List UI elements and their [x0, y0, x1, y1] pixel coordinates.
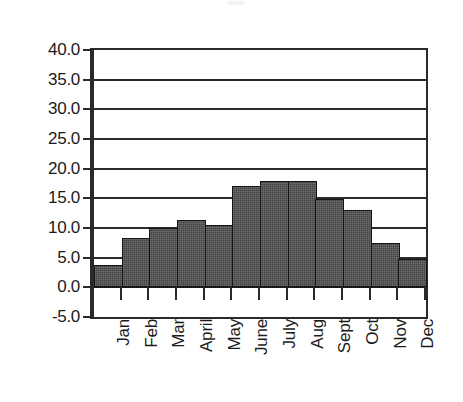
- y-axis-tick-labels: 40.035.030.025.020.015.010.05.00.0-5.0: [22, 0, 80, 402]
- y-tick-label: 20.0: [26, 160, 80, 177]
- plot-inner-area: [94, 50, 426, 317]
- x-tick-mark: [313, 287, 315, 300]
- y-tick-label: 25.0: [26, 130, 80, 147]
- x-label-jan: Jan: [115, 319, 133, 399]
- y-tick-mark: [83, 49, 93, 51]
- y-tick-label: 15.0: [26, 189, 80, 206]
- bar-dec: [398, 259, 427, 287]
- bar-series: [94, 50, 426, 317]
- x-label-mar: Mar: [170, 319, 188, 399]
- bar-oct: [343, 210, 372, 288]
- x-label-june: June: [253, 319, 271, 399]
- plot-area-frame: [92, 48, 428, 319]
- x-label-sept: Sept: [336, 319, 354, 399]
- y-tick-label: 40.0: [26, 41, 80, 58]
- y-tick-mark: [83, 138, 93, 140]
- y-tick-label: 0.0: [26, 278, 80, 295]
- y-tick-label: 5.0: [26, 249, 80, 266]
- bar-aug: [288, 181, 317, 288]
- x-tick-mark: [203, 287, 205, 300]
- bar-feb: [122, 238, 151, 287]
- bar-mar: [149, 228, 178, 287]
- x-label-dec: Dec: [419, 319, 437, 399]
- x-label-april: April: [198, 319, 216, 399]
- bar-july: [260, 181, 289, 288]
- x-tick-mark: [230, 287, 232, 300]
- x-tick-mark: [258, 287, 260, 300]
- bar-nov: [371, 243, 400, 288]
- x-label-oct: Oct: [364, 319, 382, 399]
- y-tick-mark: [83, 316, 93, 318]
- x-tick-mark: [424, 287, 426, 300]
- bar-sept: [315, 199, 344, 287]
- y-tick-label: 30.0: [26, 100, 80, 117]
- x-label-feb: Feb: [143, 319, 161, 399]
- x-label-may: May: [226, 319, 244, 399]
- x-tick-mark: [92, 287, 94, 300]
- x-tick-mark: [120, 287, 122, 300]
- x-label-july: July: [281, 319, 299, 399]
- x-tick-mark: [396, 287, 398, 300]
- y-tick-mark: [83, 168, 93, 170]
- x-tick-mark: [341, 287, 343, 300]
- x-tick-mark: [286, 287, 288, 300]
- bar-may: [205, 225, 234, 287]
- y-tick-mark: [83, 197, 93, 199]
- x-tick-mark: [175, 287, 177, 300]
- y-tick-mark: [83, 108, 93, 110]
- y-tick-label: 10.0: [26, 219, 80, 236]
- y-tick-mark: [83, 227, 93, 229]
- bar-jan: [94, 265, 123, 288]
- x-axis-category-labels: JanFebMarAprilMayJuneJulyAugSeptOctNovDe…: [92, 319, 428, 402]
- y-tick-label: -5.0: [26, 308, 80, 325]
- x-tick-mark: [147, 287, 149, 300]
- x-label-aug: Aug: [309, 319, 327, 399]
- x-label-nov: Nov: [392, 319, 410, 399]
- bar-april: [177, 220, 206, 287]
- bar-june: [232, 186, 261, 287]
- y-tick-mark: [83, 257, 93, 259]
- y-tick-label: 35.0: [26, 71, 80, 88]
- y-tick-mark: [83, 79, 93, 81]
- x-tick-mark: [369, 287, 371, 300]
- bar-chart-figure: 40.035.030.025.020.015.010.05.00.0-5.0 J…: [0, 0, 463, 402]
